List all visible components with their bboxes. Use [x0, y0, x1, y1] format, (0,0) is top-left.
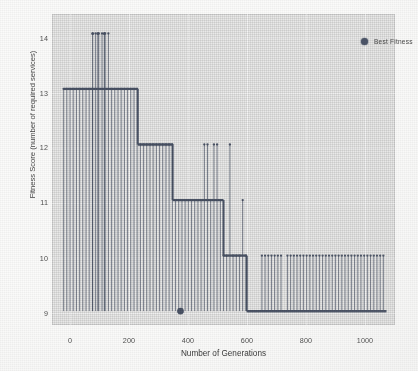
x-tick-label-800: 800	[289, 336, 323, 345]
x-tick-label-0: 0	[53, 336, 87, 345]
x-tick-label-600: 600	[230, 336, 264, 345]
x-tick-label-1000: 1000	[348, 336, 382, 345]
y-tick-label-12: 12	[26, 143, 48, 152]
circle-marker-icon	[361, 38, 368, 45]
legend-label: Best Fitness	[374, 38, 413, 45]
plot-area: Best Fitness	[52, 14, 395, 325]
figure-canvas: Fitness Score (number of required servic…	[0, 0, 418, 371]
y-axis-label-wrapper: Fitness Score (number of required servic…	[0, 0, 30, 340]
y-tick-label-10: 10	[26, 254, 48, 263]
x-axis-label: Number of Generations	[52, 349, 395, 358]
x-tick-label-400: 400	[171, 336, 205, 345]
legend: Best Fitness	[357, 36, 417, 47]
y-tick-label-13: 13	[26, 89, 48, 98]
y-tick-label-14: 14	[26, 34, 48, 43]
x-tick-label-200: 200	[112, 336, 146, 345]
y-tick-label-11: 11	[26, 198, 48, 207]
y-tick-label-9: 9	[26, 309, 48, 318]
stem-plot-series	[52, 14, 395, 325]
